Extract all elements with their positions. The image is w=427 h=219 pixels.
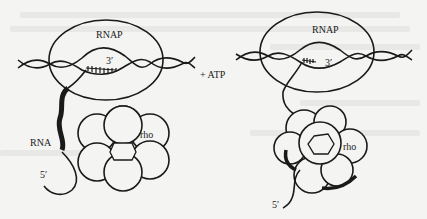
rna-5prime-label-right: 5′ (272, 199, 279, 210)
rna-dna-hybrid-right (302, 58, 316, 64)
rna-label: RNA (30, 137, 52, 148)
rho-termination-diagram: RNAP 3′ RNA 5′ rho + ATP RNAP 3′ rho 5′ (0, 0, 427, 219)
rna-thin-left (68, 70, 86, 88)
rho-label-right: rho (343, 141, 356, 152)
atp-label: + ATP (200, 69, 226, 80)
rho-hexamer-left (78, 106, 169, 191)
right-panel (236, 12, 412, 208)
rna-3prime-label-right: 3′ (325, 57, 332, 68)
rna-thick-left (59, 88, 68, 150)
dna-strand-right-a (236, 43, 412, 61)
rna-5prime-tail-left (44, 152, 77, 194)
rna-5prime-label-left: 5′ (40, 169, 47, 180)
rnap-label-right: RNAP (312, 24, 339, 35)
rho-label-left: rho (140, 129, 153, 140)
rnap-label-left: RNAP (96, 29, 123, 40)
rna-3prime-label-left: 3′ (106, 55, 113, 66)
